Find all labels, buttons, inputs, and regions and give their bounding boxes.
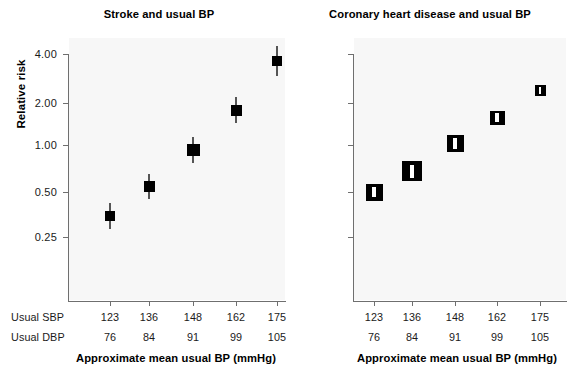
x-axis-line-right (353, 301, 567, 302)
y-tick-right-200 (348, 103, 353, 104)
error-bar-right-3 (453, 138, 457, 149)
data-point-5 (272, 56, 282, 66)
y-tick-label-400: 4.00 (23, 48, 57, 60)
y-tick-label-200: 2.00 (23, 97, 57, 109)
panel-stroke: Stroke and usual BP Relative risk 4.00 2… (0, 0, 290, 371)
x-tick-148 (193, 301, 194, 306)
x-tick-123 (110, 301, 111, 306)
dbp-value-right-2: 84 (392, 331, 432, 343)
panel-title-stroke: Stroke and usual BP (0, 8, 290, 20)
data-point-right-3 (447, 135, 464, 152)
dbp-value-right-3: 91 (435, 331, 475, 343)
error-bar-right-1 (372, 187, 376, 198)
sbp-value-2: 136 (129, 311, 169, 323)
y-tick-right-100 (348, 145, 353, 146)
sbp-value-3: 148 (173, 311, 213, 323)
data-point-4 (231, 105, 242, 116)
figure-root: Stroke and usual BP Relative risk 4.00 2… (0, 0, 573, 371)
y-axis-label: Relative risk (15, 49, 27, 139)
y-tick-050 (63, 192, 68, 193)
y-tick-right-400 (348, 54, 353, 55)
sbp-value-right-3: 148 (435, 311, 475, 323)
sbp-value-right-2: 136 (392, 311, 432, 323)
y-tick-right-050 (348, 192, 353, 193)
panel-coronary-heart-disease: Coronary heart disease and usual BP (283, 0, 573, 371)
dbp-value-2: 84 (129, 331, 169, 343)
y-tick-label-100: 1.00 (23, 139, 57, 151)
data-point-right-4 (490, 111, 505, 125)
x-tick-right-136 (412, 301, 413, 306)
dbp-value-right-1: 76 (354, 331, 394, 343)
x-tick-right-123 (374, 301, 375, 306)
plot-area-chd (354, 38, 566, 300)
data-point-2 (144, 181, 155, 192)
data-point-right-2 (402, 161, 422, 181)
y-tick-400 (63, 54, 68, 55)
y-axis-line-right (353, 54, 354, 302)
error-bar-right-2 (410, 165, 414, 178)
sbp-value-right-4: 162 (477, 311, 517, 323)
row-label-dbp: Usual DBP (11, 331, 65, 343)
data-point-3 (187, 144, 200, 156)
x-tick-175 (277, 301, 278, 306)
y-tick-100 (63, 145, 68, 146)
dbp-value-4: 99 (216, 331, 256, 343)
y-axis-line-left (68, 54, 69, 302)
error-bar-right-5 (539, 87, 542, 94)
data-point-1 (105, 211, 115, 221)
sbp-value-4: 162 (216, 311, 256, 323)
dbp-value-right-4: 99 (477, 331, 517, 343)
panel-title-chd: Coronary heart disease and usual BP (283, 8, 573, 20)
y-tick-200 (63, 103, 68, 104)
x-axis-caption-left: Approximate mean usual BP (mmHg) (60, 352, 292, 364)
row-label-sbp: Usual SBP (11, 311, 64, 323)
y-tick-label-050: 0.50 (23, 186, 57, 198)
sbp-value-1: 123 (90, 311, 130, 323)
dbp-value-right-5: 105 (520, 331, 560, 343)
x-tick-right-175 (540, 301, 541, 306)
sbp-value-right-1: 123 (354, 311, 394, 323)
x-axis-caption-right: Approximate mean usual BP (mmHg) (341, 352, 573, 364)
sbp-value-right-5: 175 (520, 311, 560, 323)
y-tick-025 (63, 237, 68, 238)
x-tick-right-162 (497, 301, 498, 306)
x-tick-162 (236, 301, 237, 306)
x-axis-line-left (68, 301, 286, 302)
y-tick-label-025: 0.25 (23, 231, 57, 243)
data-point-right-1 (366, 184, 383, 201)
dbp-value-1: 76 (90, 331, 130, 343)
data-point-right-5 (535, 85, 546, 96)
x-tick-136 (149, 301, 150, 306)
y-tick-right-025 (348, 237, 353, 238)
dbp-value-3: 91 (173, 331, 213, 343)
error-bar-right-4 (495, 113, 499, 122)
x-tick-right-148 (455, 301, 456, 306)
plot-area-stroke (69, 38, 285, 300)
